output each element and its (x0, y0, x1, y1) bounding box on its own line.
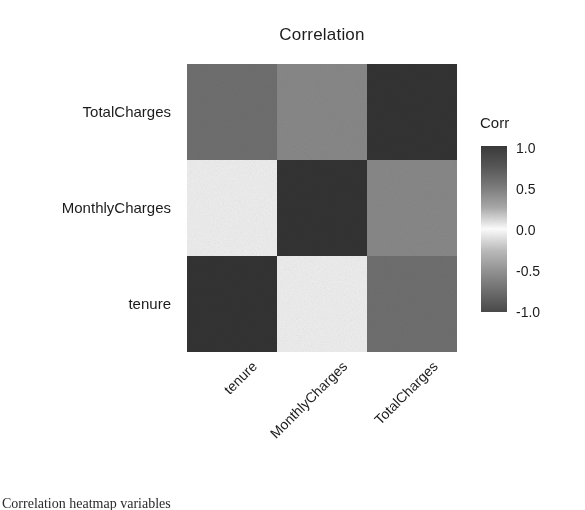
heatmap-cell (187, 160, 277, 256)
legend-tick-neg-1-0: -1.0 (516, 304, 540, 320)
legend-title: Corr (480, 114, 509, 131)
y-axis-tick-label: TotalCharges (83, 103, 171, 120)
y-axis-labels: TotalCharges MonthlyCharges tenure (14, 64, 179, 352)
y-axis-tick-label: MonthlyCharges (62, 199, 171, 216)
x-axis-tick-totalcharges: TotalCharges (371, 358, 441, 428)
legend-tick-neg-0-5: -0.5 (516, 263, 540, 279)
x-axis-labels: tenure MonthlyCharges TotalCharges (187, 352, 477, 472)
chart-title: Correlation (187, 25, 457, 45)
y-axis-tick-label: tenure (128, 295, 171, 312)
heatmap-cell (367, 160, 457, 256)
colorbar-gradient (481, 146, 507, 312)
heatmap-panel (187, 64, 457, 352)
legend-tick-0-0: 0.0 (516, 222, 535, 238)
heatmap-cell (187, 64, 277, 160)
legend-tick-0-5: 0.5 (516, 181, 535, 197)
legend-tick-1-0: 1.0 (516, 140, 535, 156)
figure-caption: Correlation heatmap variables (2, 496, 422, 510)
heatmap-cell (367, 256, 457, 352)
colorbar (481, 146, 507, 312)
heatmap-cell (367, 64, 457, 160)
heatmap-cell (277, 64, 367, 160)
heatmap-cell (187, 256, 277, 352)
x-axis-tick-monthlycharges: MonthlyCharges (267, 358, 350, 441)
heatmap-cell (277, 160, 367, 256)
heatmap-cell (277, 256, 367, 352)
x-axis-tick-tenure: tenure (221, 358, 260, 397)
